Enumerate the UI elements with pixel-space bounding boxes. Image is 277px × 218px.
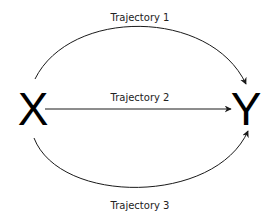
node-x: X [18,83,49,135]
edge-trajectory-2: Trajectory 2 [45,92,231,109]
edge-trajectory-3: Trajectory 3 [34,131,248,211]
label-trajectory-3: Trajectory 3 [110,200,170,211]
diagram-canvas: Trajectory 1 Trajectory 2 Trajectory 3 X… [0,0,277,218]
arrow-trajectory-1 [35,26,246,84]
label-trajectory-1: Trajectory 1 [110,12,170,23]
arrow-trajectory-3 [34,131,248,187]
label-trajectory-2: Trajectory 2 [110,92,170,103]
node-y: Y [231,83,262,135]
edge-trajectory-1: Trajectory 1 [35,12,246,84]
